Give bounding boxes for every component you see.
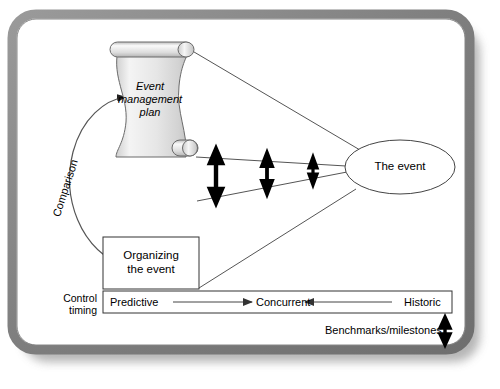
control-timing-line-1: Control [40,292,97,304]
plan-label-line-1: Event [114,80,186,93]
plan-label-line-3: plan [114,106,186,119]
timing-stage-historic: Historic [404,296,441,308]
plan-label: Event management plan [114,80,186,119]
control-timing-line-2: timing [40,304,97,316]
control-timing-label: Control timing [40,292,97,316]
organizing-label: Organizing the event [103,248,199,276]
timing-stage-concurrent: Concurrent [256,296,310,308]
diagram-canvas: Event management plan The event Organizi… [0,0,500,389]
benchmarks-label: Benchmarks/milestones [325,324,442,336]
organizing-label-line-2: the event [103,262,199,276]
the-event-label: The event [345,160,455,172]
organizing-label-line-1: Organizing [103,248,199,262]
timing-stage-predictive: Predictive [110,296,158,308]
plan-label-line-2: management [114,93,186,106]
